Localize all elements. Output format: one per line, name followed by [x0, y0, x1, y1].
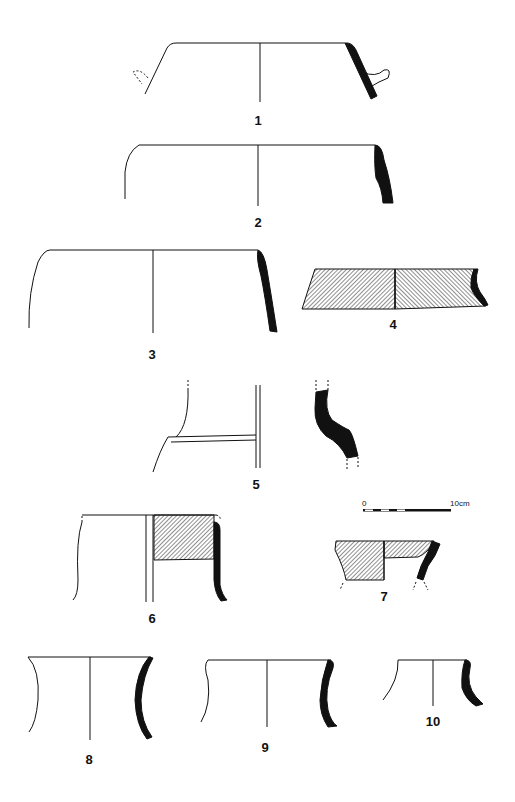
figure-4-label: 4	[389, 317, 396, 332]
figure-6-drawing	[73, 515, 227, 602]
figure-5-drawing	[153, 380, 358, 472]
figure-6-label: 6	[148, 611, 155, 626]
figure-10-label: 10	[426, 714, 440, 729]
figure-9-drawing	[201, 660, 337, 727]
figure-10-drawing	[383, 660, 483, 706]
figure-3-drawing	[29, 250, 277, 333]
figure-8-label: 8	[85, 752, 92, 767]
figure-7-label: 7	[380, 589, 387, 604]
figure-9-label: 9	[261, 740, 268, 755]
figure-4-drawing	[302, 269, 488, 309]
scale-start-label: 0	[362, 499, 366, 508]
figure-8-drawing	[28, 657, 153, 740]
figure-1-drawing	[133, 43, 389, 102]
figure-2-label: 2	[254, 215, 261, 230]
scale-bar	[363, 509, 451, 512]
figure-5-label: 5	[252, 477, 259, 492]
figure-2-drawing	[125, 145, 393, 206]
figure-1-label: 1	[254, 113, 261, 128]
scale-end-label: 10cm	[450, 499, 470, 508]
figure-7-drawing	[335, 541, 440, 590]
figure-3-label: 3	[148, 347, 155, 362]
